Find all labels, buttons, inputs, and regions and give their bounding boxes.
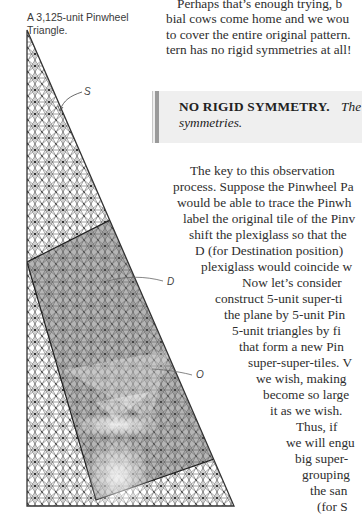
sidebar-text-line2: symmetries. [179, 115, 361, 131]
text-line: plexiglass would coincide w [201, 259, 352, 275]
text-line: Now let’s consider [242, 275, 342, 291]
text-line: 5-unit triangles by fi [232, 323, 341, 339]
label-o: O [196, 369, 204, 380]
text-line: construct 5-unit super-ti [215, 291, 343, 307]
text-line: become so large [263, 387, 349, 403]
text-line: (for S [317, 499, 348, 515]
text-line: the plane by 5-unit Pin [224, 307, 345, 323]
sidebar-text: NO RIGID SYMMETRY. The symmetries. [179, 99, 361, 130]
text-line: we wish, making [256, 371, 346, 387]
text-line: D (for Destination position) [195, 243, 343, 259]
text-line: to cover the entire original pattern. [166, 27, 351, 42]
figure-caption: A 3,125-unit Pinwheel Triangle. [27, 11, 137, 37]
sidebar-text-line1: The [341, 99, 361, 114]
text-line: shift the plexiglass so that the [189, 227, 347, 243]
label-s: S [84, 86, 91, 97]
text-line: process. Suppose the Pinwheel Pa [173, 179, 354, 195]
label-s-leader [60, 92, 82, 110]
sidebar-rule [152, 91, 153, 143]
text-line: Perhaps that’s enough trying, b [166, 0, 351, 11]
text-line: label the original tile of the Pinv [183, 211, 355, 227]
text-line: Thus, if [296, 419, 337, 435]
text-line: that form a new Pin [239, 339, 344, 355]
text-line: super-super-tiles. V [248, 355, 352, 371]
text-line: grouping [302, 467, 350, 483]
sidebar-accent-bar [155, 91, 159, 143]
text-line: the san [310, 483, 347, 499]
sidebar-title: NO RIGID SYMMETRY. [179, 99, 330, 114]
text-line: big super- [295, 451, 348, 467]
text-line: bial cows come home and we wou [166, 11, 351, 26]
text-line: tern has no rigid symmetries at all! [166, 42, 351, 57]
text-line: The key to this observation [190, 163, 335, 179]
top-paragraph: Perhaps that’s enough trying, b bial cow… [166, 0, 351, 58]
text-line: it as we wish. [270, 403, 342, 419]
label-d: D [167, 276, 174, 287]
text-line: would be able to trace the Pinwh [177, 195, 351, 211]
text-line: we will engu [286, 435, 355, 451]
